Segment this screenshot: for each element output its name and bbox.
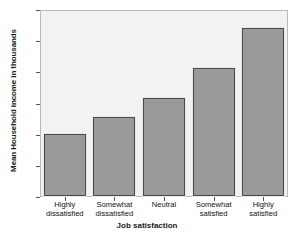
x-axis-tick-label-line: Somewhat <box>96 200 134 209</box>
x-axis-tick-label-line: Somewhat <box>196 200 232 209</box>
x-axis-tick-label: Somewhatsatisfied <box>196 200 232 218</box>
bar-chart: Mean Household income in thousands 02040… <box>0 0 294 236</box>
plot-area <box>40 10 288 197</box>
x-axis-tick-label-line: Neutral <box>152 200 176 209</box>
x-axis-tick-label: Neutral <box>152 200 176 209</box>
bar <box>143 98 185 196</box>
y-axis-tick-mark <box>36 197 40 198</box>
x-axis-tick-label-line: satisfied <box>196 209 232 218</box>
bar <box>93 117 135 196</box>
x-axis-tick-label-line: satisfied <box>249 209 277 218</box>
bar <box>193 68 235 196</box>
x-axis-tick-label-line: dissatisfied <box>96 209 134 218</box>
x-axis-tick-label-line: dissatisfied <box>46 209 84 218</box>
x-axis-tick-label-line: Highly <box>249 200 277 209</box>
x-axis-title: Job satisfaction <box>0 221 294 230</box>
x-axis-tick-label: Somewhatdissatisfied <box>96 200 134 218</box>
bar <box>242 28 284 196</box>
y-axis-title: Mean Household income in thousands <box>9 11 18 191</box>
x-axis-tick-label-line: Highly <box>46 200 84 209</box>
x-axis-tick-label: Highlydissatisfied <box>46 200 84 218</box>
x-axis-tick-label: Highlysatisfied <box>249 200 277 218</box>
bar <box>44 134 86 196</box>
